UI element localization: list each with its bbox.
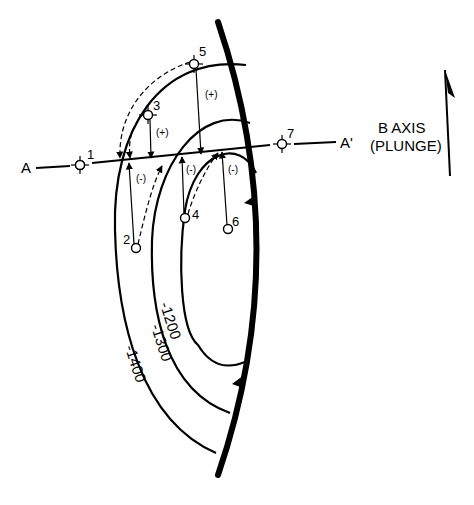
well-label-1: 1 (87, 148, 94, 161)
b-axis-label-line2: (PLUNGE) (370, 138, 442, 153)
contour-1200 (181, 154, 256, 366)
sign-minus-right: (-) (228, 165, 238, 175)
projection-4-solid (182, 157, 184, 214)
b-axis-label-line1: B AXIS (378, 120, 426, 135)
sign-plus-upper: (+) (205, 90, 218, 100)
projection-3-solid (150, 120, 151, 158)
projection-5-solid (196, 69, 201, 154)
sign-minus-left: (-) (136, 174, 146, 184)
well-label-3: 3 (153, 99, 160, 112)
projection-6-solid (222, 152, 227, 225)
well-label-5: 5 (199, 45, 206, 58)
fault-line (218, 22, 257, 475)
sign-plus-left: (+) (156, 128, 169, 138)
fault-tooth-upper (244, 194, 257, 207)
fault-tooth-lower (232, 375, 244, 388)
section-line-left (36, 166, 70, 168)
well-symbol-2 (132, 244, 141, 253)
section-start-label: A (21, 160, 31, 175)
projection-3-dashed (130, 113, 144, 158)
well-label-6: 6 (232, 215, 239, 228)
diagram-canvas (0, 0, 474, 505)
section-line-right (294, 142, 336, 144)
sign-minus-mid: (-) (186, 165, 196, 175)
section-end-label: A' (340, 135, 353, 150)
well-label-4: 4 (192, 208, 199, 221)
section-line-main (92, 145, 270, 163)
well-symbol-4 (181, 214, 190, 223)
well-label-2: 2 (123, 233, 130, 246)
well-label-7: 7 (287, 127, 294, 140)
